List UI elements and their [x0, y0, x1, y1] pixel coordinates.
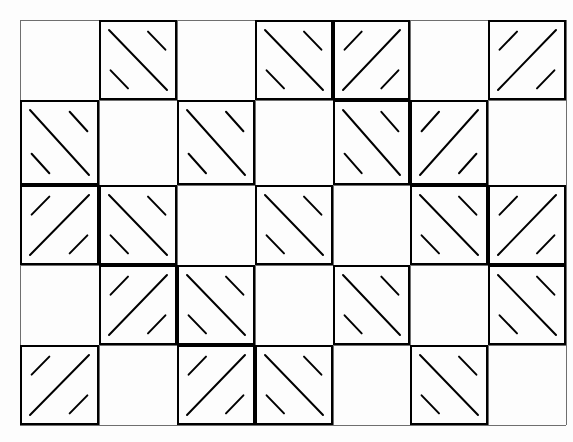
hatched-cell-r2-c0: [21, 186, 98, 264]
hatched-cell-r3-c4: [334, 266, 409, 344]
hatched-cell-r1-c0: [21, 101, 98, 184]
hatch-stroke-0: [498, 195, 556, 255]
hatch-stroke-0: [187, 110, 245, 175]
hatch-stroke-0: [265, 355, 323, 415]
grid-svg: [0, 0, 573, 442]
hatch-stroke-2: [422, 235, 439, 253]
hatched-cell-r3-c6: [489, 266, 565, 344]
hatch-stroke-2: [111, 277, 128, 295]
hatch-stroke-1: [304, 32, 321, 50]
hatch-stroke-1: [537, 235, 554, 253]
hatch-stroke-1: [304, 357, 321, 375]
hatch-stroke-1: [459, 154, 476, 174]
hatch-stroke-2: [422, 395, 439, 413]
hatched-cell-r4-c0: [21, 346, 98, 424]
hatch-stroke-0: [109, 275, 167, 335]
hatched-cell-r1-c5: [411, 101, 487, 184]
hatch-stroke-1: [459, 197, 476, 215]
hatch-stroke-0: [30, 195, 89, 255]
hatch-stroke-2: [345, 154, 362, 174]
hatch-stroke-2: [189, 315, 206, 333]
hatched-cell-r0-c1: [100, 21, 176, 99]
hatch-stroke-0: [265, 30, 323, 90]
hatch-stroke-0: [30, 355, 89, 415]
hatched-cell-r0-c4: [334, 21, 409, 99]
diagram-canvas: [0, 0, 573, 442]
hatch-stroke-2: [32, 197, 50, 215]
hatched-cell-r1-c4: [334, 101, 409, 184]
hatch-stroke-1: [537, 277, 554, 295]
hatch-stroke-0: [109, 30, 167, 90]
hatched-cell-r2-c3: [256, 186, 332, 264]
hatched-cell-r4-c5: [411, 346, 487, 424]
hatch-stroke-2: [422, 112, 439, 131]
hatch-stroke-1: [70, 235, 88, 253]
hatch-stroke-1: [70, 395, 88, 413]
hatched-cell-r1-c2: [178, 101, 254, 184]
hatch-stroke-0: [265, 195, 323, 255]
hatch-stroke-0: [343, 110, 400, 175]
hatch-stroke-1: [148, 32, 165, 50]
hatch-stroke-1: [226, 277, 243, 295]
hatched-cell-r2-c6: [489, 186, 565, 264]
hatch-stroke-0: [498, 275, 556, 335]
hatched-cell-r0-c3: [256, 21, 332, 99]
hatched-cells-layer: [21, 21, 565, 424]
hatch-stroke-0: [109, 195, 167, 255]
hatch-stroke-0: [187, 275, 245, 335]
hatch-stroke-2: [32, 357, 50, 375]
hatch-stroke-0: [343, 275, 400, 335]
hatched-cell-r0-c6: [489, 21, 565, 99]
hatch-stroke-1: [381, 277, 398, 295]
hatch-stroke-1: [381, 70, 398, 88]
hatch-stroke-0: [343, 30, 400, 90]
hatch-stroke-2: [111, 235, 128, 253]
hatch-stroke-1: [148, 197, 165, 215]
hatch-stroke-1: [381, 112, 398, 131]
hatch-stroke-2: [111, 70, 128, 88]
hatched-cell-r2-c1: [100, 186, 176, 264]
hatch-stroke-2: [500, 32, 517, 50]
hatch-stroke-2: [267, 235, 284, 253]
hatch-stroke-1: [148, 315, 165, 333]
hatch-stroke-0: [420, 110, 478, 175]
hatch-stroke-2: [267, 395, 284, 413]
hatch-stroke-2: [345, 315, 362, 333]
hatch-stroke-0: [187, 355, 245, 415]
hatch-stroke-2: [500, 315, 517, 333]
hatch-stroke-1: [226, 395, 243, 413]
hatch-stroke-2: [267, 70, 284, 88]
hatch-stroke-2: [189, 154, 206, 174]
grid-lines-layer: [20, 20, 567, 426]
hatched-cell-r4-c3: [256, 346, 332, 424]
hatch-stroke-0: [420, 355, 478, 415]
hatch-stroke-0: [30, 110, 89, 175]
hatched-cell-r3-c1: [100, 266, 176, 344]
hatch-stroke-1: [304, 197, 321, 215]
hatch-stroke-1: [459, 357, 476, 375]
hatched-cell-r4-c2: [178, 346, 254, 424]
hatch-stroke-2: [345, 32, 362, 50]
hatch-stroke-1: [226, 112, 243, 131]
hatched-cell-r3-c2: [178, 266, 254, 344]
hatch-stroke-1: [70, 112, 88, 131]
hatch-stroke-0: [420, 195, 478, 255]
hatch-stroke-2: [189, 357, 206, 375]
hatched-cell-r2-c5: [411, 186, 487, 264]
hatch-stroke-2: [32, 154, 50, 174]
hatch-stroke-0: [498, 30, 556, 90]
hatch-stroke-1: [537, 70, 554, 88]
hatch-stroke-2: [500, 197, 517, 215]
